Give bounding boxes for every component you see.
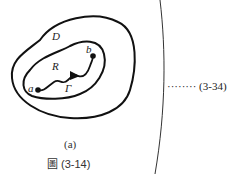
label-gamma: Γ — [64, 82, 72, 94]
point-a — [35, 87, 41, 93]
label-d: D — [51, 30, 60, 42]
brace-curve — [155, 0, 164, 174]
subcaption: (a) — [64, 138, 76, 150]
outer-region-boundary — [12, 16, 135, 118]
label-a: a — [28, 82, 34, 94]
figure-caption: 圖 (3-14) — [47, 155, 90, 171]
label-r: R — [51, 60, 59, 72]
label-b: b — [86, 43, 92, 55]
curve-direction-arrow — [70, 71, 80, 80]
equation-reference: ········ (3-34) — [167, 80, 227, 92]
